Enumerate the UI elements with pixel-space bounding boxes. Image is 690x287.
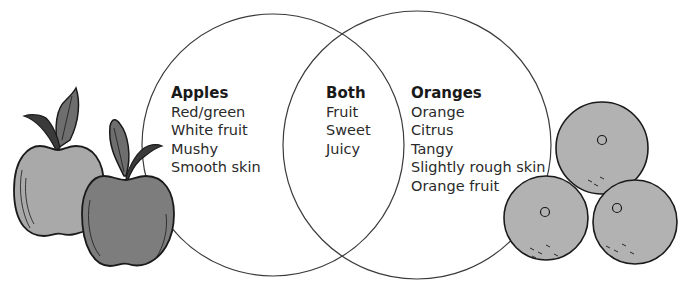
- front-apple-leaf-icon: [110, 120, 162, 180]
- oranges-item: Citrus: [411, 121, 545, 140]
- oranges-section: Oranges Orange Citrus Tangy Slightly rou…: [411, 84, 545, 195]
- both-title: Both: [326, 84, 371, 103]
- both-section: Both Fruit Sweet Juicy: [326, 84, 371, 158]
- apples-item: Mushy: [171, 140, 261, 159]
- oranges-item: Orange fruit: [411, 177, 545, 196]
- both-item: Juicy: [326, 140, 371, 159]
- oranges-item: Slightly rough skin: [411, 158, 545, 177]
- apples-title: Apples: [171, 84, 261, 103]
- right-orange-icon: [593, 180, 677, 264]
- both-item: Fruit: [326, 103, 371, 122]
- oranges-item: Orange: [411, 103, 545, 122]
- both-item: Sweet: [326, 121, 371, 140]
- two-apples-illustration: [14, 88, 174, 266]
- apples-section: Apples Red/green White fruit Mushy Smoot…: [171, 84, 261, 177]
- apples-item: White fruit: [171, 121, 261, 140]
- apples-item: Smooth skin: [171, 158, 261, 177]
- front-apple-icon: [82, 176, 174, 266]
- apples-item: Red/green: [171, 103, 261, 122]
- oranges-title: Oranges: [411, 84, 545, 103]
- back-apple-leaf-icon: [24, 88, 78, 150]
- oranges-item: Tangy: [411, 140, 545, 159]
